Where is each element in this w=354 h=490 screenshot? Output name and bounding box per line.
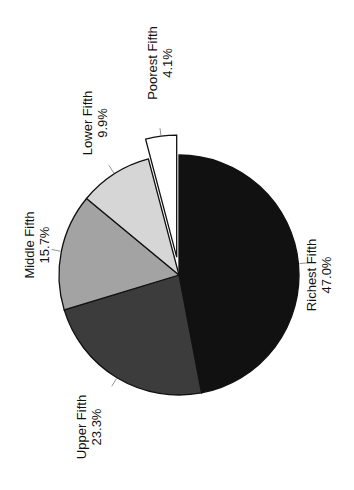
label-richest-value: 47.0% (319, 256, 334, 293)
leader-line (112, 379, 117, 387)
label-upper-name: Upper Fifth (74, 395, 89, 459)
label-poorest: Poorest Fifth 4.1% (145, 26, 175, 100)
leader-line (160, 128, 161, 135)
label-lower: Lower Fifth 9.9% (80, 91, 110, 155)
label-upper-value: 23.3% (89, 408, 104, 445)
leader-line (52, 249, 61, 251)
label-richest: Richest Fifth 47.0% (304, 239, 334, 311)
label-lower-name: Lower Fifth (80, 91, 95, 155)
label-richest-name: Richest Fifth (304, 239, 319, 311)
pie-slice-richest-fifth (179, 155, 299, 393)
leader-line (109, 165, 114, 173)
label-upper: Upper Fifth 23.3% (74, 395, 104, 459)
label-middle: Middle Fifth 15.7% (22, 211, 52, 278)
pie-chart: Richest Fifth 47.0% Upper Fifth 23.3% Mi… (0, 0, 354, 490)
label-poorest-name: Poorest Fifth (145, 26, 160, 100)
label-lower-value: 9.9% (95, 108, 110, 138)
label-middle-value: 15.7% (37, 226, 52, 263)
label-poorest-value: 4.1% (160, 48, 175, 78)
pie-slices (59, 135, 299, 395)
label-middle-name: Middle Fifth (22, 211, 37, 278)
